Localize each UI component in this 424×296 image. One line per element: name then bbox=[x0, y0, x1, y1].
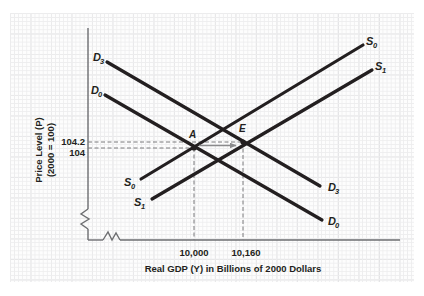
y-axis-title-line2: (2000 = 100) bbox=[45, 123, 56, 177]
curve-label-s1-start-sub: 1 bbox=[141, 202, 145, 211]
supply-demand-chart: A E D 3 D 0 S 0 S 1 S 0 S 1 D 3 D 0 104.… bbox=[0, 0, 424, 296]
x-tick-label-10000: 10,000 bbox=[179, 247, 208, 258]
demand-curve-d3 bbox=[107, 62, 320, 186]
curve-label-d3-start-sub: 3 bbox=[100, 57, 105, 66]
supply-curve-s0 bbox=[141, 45, 363, 179]
x-axis-title: Real GDP (Y) in Billions of 2000 Dollars bbox=[145, 263, 322, 274]
curve-label-d3-end-sub: 3 bbox=[335, 187, 340, 196]
chart-page: A E D 3 D 0 S 0 S 1 S 0 S 1 D 3 D 0 104.… bbox=[0, 0, 424, 296]
y-tick-label-104: 104 bbox=[69, 147, 86, 158]
point-label-a: A bbox=[188, 129, 196, 140]
y-tick-label-104-2: 104.2 bbox=[61, 136, 85, 147]
x-axis-break-zigzag bbox=[103, 232, 120, 240]
curve-label-s0-start-sub: 0 bbox=[131, 182, 136, 191]
point-marker-a bbox=[191, 145, 196, 150]
curve-label-s0-end-sub: 0 bbox=[373, 41, 378, 50]
point-label-e: E bbox=[239, 123, 246, 134]
y-axis-title-line1: Price Level (P) bbox=[33, 117, 44, 182]
point-marker-e bbox=[240, 139, 245, 144]
curve-label-s1-end-sub: 1 bbox=[382, 66, 386, 75]
x-tick-label-10160: 10,160 bbox=[231, 247, 260, 258]
curve-label-d0-end-sub: 0 bbox=[335, 221, 340, 230]
supply-curve-s1 bbox=[152, 70, 372, 199]
y-axis-break-zigzag bbox=[81, 209, 89, 229]
curve-label-d0-start-sub: 0 bbox=[98, 90, 103, 99]
